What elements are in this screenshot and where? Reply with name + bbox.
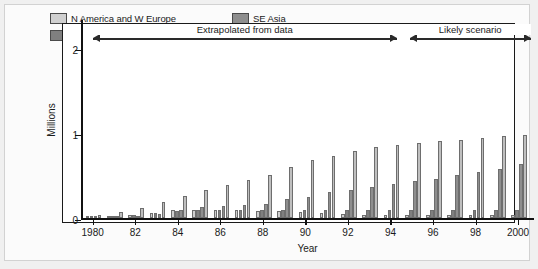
bar-group [86,20,102,218]
x-tick [476,220,477,225]
x-tick-label: 98 [470,227,481,238]
annotation-label: Likely scenario [410,24,531,35]
x-tick [135,220,136,225]
bar-group [171,20,187,218]
bar [247,180,251,218]
y-tick-label: 1 [72,129,78,140]
bar-group [277,20,293,218]
bar-group [426,20,442,218]
x-tick [390,220,391,225]
annotation-arrow-left-icon [93,34,100,42]
axes: Millions 012 19808284868890929496982000 … [81,20,534,220]
bar-group [490,20,506,218]
bar [481,138,485,218]
plot-area: Millions 012 19808284868890929496982000 … [63,24,514,222]
x-tick [220,220,221,225]
bar [523,135,527,218]
x-tick [263,220,264,225]
x-tick-label: 92 [342,227,353,238]
annotation-arrow-right-icon [524,34,531,42]
x-tick-label: 90 [300,227,311,238]
bar-group [128,20,144,218]
x-tick [93,220,94,225]
x-tick-label: 94 [385,227,396,238]
x-tick [518,220,519,225]
legend-swatch-n-america-and-w-europe [50,13,67,24]
page-background: N America and W Europe L America and Car… [0,0,538,269]
bar [162,202,166,218]
bar [502,136,506,218]
bar [438,141,442,218]
bar [140,208,144,218]
bar-group [320,20,336,218]
x-tick-label: 96 [427,227,438,238]
annotation-line [410,38,531,39]
bar [459,140,463,218]
bar [311,160,315,218]
x-tick-label: 88 [257,227,268,238]
annotation-arrow: Likely scenario [410,25,531,43]
annotation-arrow: Extrapolated from data [93,25,397,43]
bar [332,156,336,218]
x-tick [348,220,349,225]
bar [289,167,293,218]
y-axis-title: Millions [46,103,57,136]
bar-group [511,20,527,218]
bar-group [384,20,400,218]
x-tick [433,220,434,225]
figure-card: N America and W Europe L America and Car… [5,5,529,260]
bar-group [256,20,272,218]
bar [268,175,272,218]
bar [98,215,102,218]
bar-group [107,20,123,218]
annotation-arrow-left-icon [410,34,417,42]
y-tick-label: 2 [72,44,78,55]
annotation-label: Extrapolated from data [93,24,397,35]
x-tick-label: 86 [215,227,226,238]
y-tick-label: 0 [72,215,78,226]
bar [396,145,400,218]
plot-panel: Millions 012 19808284868890929496982000 … [62,23,515,223]
x-tick-label: 1980 [82,227,104,238]
bar [183,196,187,218]
x-tick-label: 82 [130,227,141,238]
annotation-line [93,38,397,39]
bar [119,212,123,218]
x-tick [178,220,179,225]
bar-group [235,20,251,218]
x-tick-label: 2000 [507,227,529,238]
bar [226,185,230,218]
bar-group [192,20,208,218]
bar-group [150,20,166,218]
bar-series-container [81,20,534,220]
bar-group [405,20,421,218]
bar-group [299,20,315,218]
bar-group [341,20,357,218]
bar-group [469,20,485,218]
bar-group [362,20,378,218]
bar [374,147,378,218]
x-tick [305,220,306,225]
x-axis-title: Year [81,243,534,254]
bar [204,190,208,218]
bar [353,151,357,218]
annotation-arrow-right-icon [390,34,397,42]
bar-group [447,20,463,218]
bar [417,143,421,218]
x-tick-label: 84 [172,227,183,238]
bar-group [214,20,230,218]
